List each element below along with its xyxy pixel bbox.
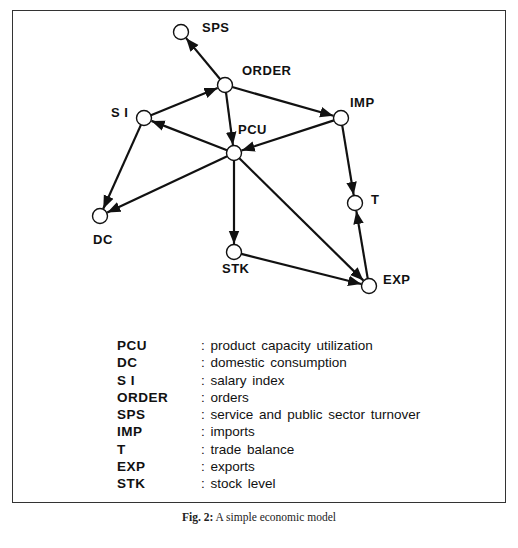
legend-row: EXP: exports bbox=[117, 458, 420, 475]
node-pcu bbox=[227, 146, 242, 161]
edge-exp-to-t bbox=[356, 211, 367, 279]
legend-desc: : salary index bbox=[201, 372, 285, 389]
legend-desc: : stock level bbox=[201, 475, 276, 492]
legend-desc: : orders bbox=[201, 389, 249, 406]
legend-row: ORDER: orders bbox=[117, 389, 420, 406]
edge-order-to-sps bbox=[186, 38, 220, 79]
legend-abbr: PCU bbox=[117, 337, 201, 354]
edge-pcu-to-exp bbox=[239, 158, 363, 280]
legend-desc: : domestic consumption bbox=[201, 354, 347, 371]
legend-row: SPS: service and public sector turnover bbox=[117, 406, 420, 423]
node-label-pcu: PCU bbox=[238, 122, 267, 137]
node-stk bbox=[227, 245, 242, 260]
legend-abbr: S I bbox=[117, 372, 201, 389]
caption-text: A simple economic model bbox=[213, 511, 336, 523]
legend-desc: : service and public sector turnover bbox=[201, 406, 420, 423]
caption-prefix: Fig. 2: bbox=[182, 511, 213, 523]
legend-row: PCU: product capacity utilization bbox=[117, 337, 420, 354]
node-si bbox=[137, 111, 152, 126]
legend-desc: : trade balance bbox=[201, 441, 294, 458]
edge-imp-to-t bbox=[342, 125, 353, 195]
legend-abbr: IMP bbox=[117, 423, 201, 440]
node-label-t: T bbox=[371, 192, 379, 207]
nodes-layer bbox=[93, 25, 377, 294]
node-label-imp: IMP bbox=[350, 95, 375, 110]
node-dc bbox=[93, 209, 108, 224]
edge-pcu-to-si bbox=[151, 121, 227, 150]
legend-abbr: EXP bbox=[117, 458, 201, 475]
legend-row: S I: salary index bbox=[117, 372, 420, 389]
legend-row: DC: domestic consumption bbox=[117, 354, 420, 371]
legend-desc: : imports bbox=[201, 423, 255, 440]
node-exp bbox=[362, 279, 377, 294]
node-sps bbox=[174, 25, 189, 40]
node-label-si: S I bbox=[111, 105, 128, 120]
edge-order-to-imp bbox=[232, 87, 333, 116]
legend-abbr: STK bbox=[117, 475, 201, 492]
legend-abbr: SPS bbox=[117, 406, 201, 423]
edge-pcu-to-dc bbox=[107, 156, 227, 212]
figure-caption: Fig. 2: A simple economic model bbox=[0, 511, 518, 523]
legend-row: T: trade balance bbox=[117, 441, 420, 458]
legend-row: STK: stock level bbox=[117, 475, 420, 492]
node-label-stk: STK bbox=[222, 261, 250, 276]
node-label-sps: SPS bbox=[202, 20, 230, 35]
node-t bbox=[348, 196, 363, 211]
legend-abbr: DC bbox=[117, 354, 201, 371]
legend-row: IMP: imports bbox=[117, 423, 420, 440]
edge-order-to-pcu bbox=[226, 92, 233, 145]
legend-desc: : product capacity utilization bbox=[201, 337, 373, 354]
legend-abbr: ORDER bbox=[117, 389, 201, 406]
node-label-dc: DC bbox=[93, 232, 113, 247]
node-label-order: ORDER bbox=[242, 63, 291, 78]
legend: PCU: product capacity utilization DC: do… bbox=[117, 337, 420, 493]
node-order bbox=[218, 78, 233, 93]
node-label-exp: EXP bbox=[383, 272, 411, 287]
edge-si-to-dc bbox=[103, 125, 141, 209]
legend-desc: : exports bbox=[201, 458, 255, 475]
edge-si-to-order bbox=[151, 88, 218, 115]
node-imp bbox=[334, 111, 349, 126]
legend-abbr: T bbox=[117, 441, 201, 458]
edge-stk-to-exp bbox=[241, 254, 361, 284]
